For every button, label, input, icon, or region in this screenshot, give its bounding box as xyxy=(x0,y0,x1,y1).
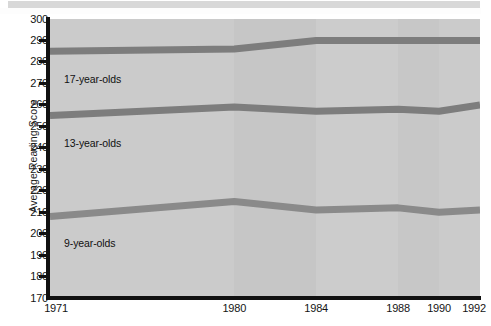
series-lines xyxy=(50,19,480,298)
y-axis-tick-label: 300 xyxy=(14,14,48,25)
series-label-17-year-olds: 17-year-olds xyxy=(64,73,121,85)
x-axis-tick-label: 1984 xyxy=(286,302,346,314)
x-axis-tick-label: 1992 xyxy=(444,302,491,314)
x-axis-tick-label: 1971 xyxy=(26,302,86,314)
y-axis-tick-mark xyxy=(39,39,48,42)
y-axis-tick-mark xyxy=(39,275,48,278)
y-axis-tick-mark xyxy=(39,211,48,214)
x-axis-tick-labels: 197119801984198819901992 xyxy=(50,302,480,322)
y-axis-tick-mark xyxy=(39,146,48,149)
y-axis-tick-mark xyxy=(39,125,48,128)
series-label-9-year-olds: 9-year-olds xyxy=(64,237,115,249)
y-axis-tick-mark xyxy=(39,60,48,63)
y-axis-tick-mark xyxy=(39,254,48,257)
y-axis-tick-mark xyxy=(39,103,48,106)
y-axis-tick-mark xyxy=(39,168,48,171)
series-line-13-year-olds xyxy=(50,105,480,116)
y-axis-tick-mark xyxy=(39,189,48,192)
y-axis-tick-mark xyxy=(39,232,48,235)
y-axis-tick-labels: 1701801902002102202302402502602702802903… xyxy=(14,14,48,304)
top-banner-strip xyxy=(8,1,480,8)
x-axis-tick-label: 1980 xyxy=(204,302,264,314)
series-line-9-year-olds xyxy=(50,201,480,216)
y-axis-tick-mark xyxy=(39,82,48,85)
plot-frame: 17-year-olds13-year-olds9-year-olds xyxy=(50,19,480,298)
series-line-17-year-olds xyxy=(50,40,480,51)
top-banner-strip-lower xyxy=(0,8,481,14)
series-label-13-year-olds: 13-year-olds xyxy=(64,137,121,149)
plot-area: 17-year-olds13-year-olds9-year-olds xyxy=(50,19,480,298)
x-axis-spine xyxy=(46,296,481,300)
